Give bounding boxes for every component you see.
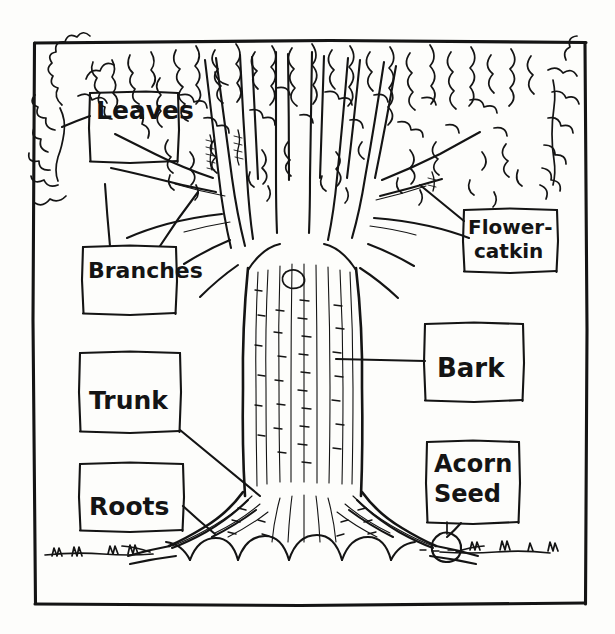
label-flower-catkin-text-line1: Flower- (468, 215, 552, 239)
label-trunk-text: Trunk (89, 386, 169, 415)
label-acorn-seed-text-line1: Acorn (434, 450, 512, 478)
diagram-page: .ink { fill:none; stroke:#141414; stroke… (0, 0, 615, 634)
label-acorn-seed-text-line2: Seed (434, 480, 501, 508)
label-bark-text: Bark (437, 353, 505, 383)
label-flower-catkin-text-line2: catkin (474, 239, 543, 263)
oak-tree-diagram: .ink { fill:none; stroke:#141414; stroke… (0, 0, 615, 634)
label-leaves-text: Leaves (96, 96, 194, 125)
label-roots-text: Roots (89, 492, 169, 521)
paper-background (0, 0, 615, 634)
label-branches-text: Branches (88, 258, 203, 283)
